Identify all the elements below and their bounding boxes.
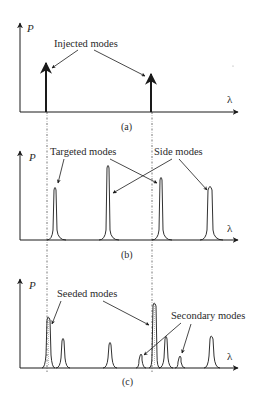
mode-peak [159,337,173,369]
annotation-seeded-modes: Seeded modes [57,288,117,299]
mode-peak [56,339,70,369]
pointer-arrow [179,159,207,190]
targeted-mode-peak-1 [47,188,66,241]
pointer-arrow [144,323,181,355]
pointer-arrow [103,301,149,325]
pointer-arrow [94,50,145,76]
pointer-arrow [113,159,172,193]
panel-b: P λ Targeted modes Side modes (b) [20,146,238,261]
panel-caption: (b) [121,249,133,261]
seeded-hatching [49,304,155,366]
panel-caption: (a) [121,121,132,133]
panel-caption: (c) [122,376,133,388]
mode-injection-diagram: P λ Injected modes (a) P λ Targeted mode… [0,0,259,402]
targeted-mode-peak-2 [152,178,172,241]
mode-peak [103,343,117,369]
x-axis-label: λ [227,350,233,362]
y-axis-label: P [28,151,36,163]
pointer-arrow [52,50,78,68]
spectral-peaks [47,166,223,241]
mode-peak [204,336,220,368]
pointer-arrow [52,301,61,324]
speck [232,65,233,66]
side-mode-peak-2 [200,187,223,241]
y-axis-label: P [26,22,34,34]
y-axis-label: P [28,279,36,291]
annotation-secondary-modes: Secondary modes [171,310,245,321]
pointer-arrow [110,159,157,183]
side-mode-peak-1 [99,166,119,241]
panel-a: P λ Injected modes (a) [20,22,238,133]
secondary-mode-peak-1 [136,354,146,368]
annotation-targeted-modes: Targeted modes [50,146,116,157]
pointer-arrow [182,324,191,353]
annotation-injected-modes: Injected modes [54,38,118,49]
secondary-mode-peak-2 [175,356,185,368]
pointer-arrow [58,159,64,183]
x-axis-label: λ [227,222,233,234]
panel-c: P λ Seeded modes Secondary modes (c) [20,279,245,388]
annotation-side-modes: Side modes [154,146,203,157]
x-axis-label: λ [227,93,233,105]
